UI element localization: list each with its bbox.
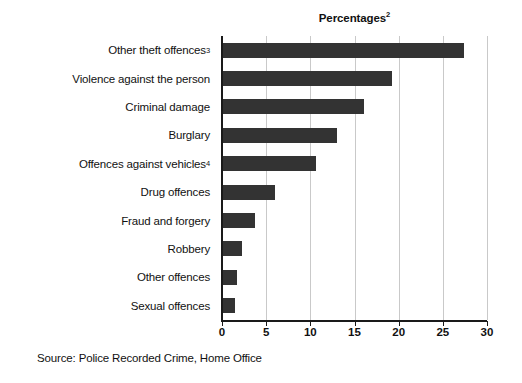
bar-series	[222, 36, 487, 320]
bar	[222, 241, 242, 256]
bar-row	[222, 235, 242, 263]
category-label: Sexual offences	[131, 292, 210, 320]
plot-area	[222, 36, 487, 320]
bar-row	[222, 150, 316, 178]
category-label-text: Offences against vehicles	[79, 158, 206, 170]
bar	[222, 298, 235, 313]
category-label-text: Other theft offences	[108, 44, 206, 56]
chart-title-text: Percentages	[319, 12, 386, 24]
category-label-text: Other offences	[137, 271, 210, 283]
bar-row	[222, 64, 392, 92]
category-footnote-marker: 4	[206, 159, 210, 168]
bar	[222, 185, 275, 200]
category-label: Offences against vehicles4	[79, 150, 210, 178]
x-axis-tick-label: 25	[436, 326, 449, 338]
chart-title: Percentages2	[222, 10, 487, 24]
bar-row	[222, 263, 237, 291]
bar-row	[222, 206, 255, 234]
category-label: Other theft offences3	[108, 36, 210, 64]
category-axis-labels: Other theft offences3Violence against th…	[0, 36, 216, 320]
gridline	[487, 36, 488, 320]
bar	[222, 213, 255, 228]
category-label-text: Burglary	[168, 129, 210, 141]
x-axis-tick-label: 10	[304, 326, 317, 338]
x-axis-tick-label: 20	[392, 326, 405, 338]
category-label: Criminal damage	[125, 93, 210, 121]
bar	[222, 270, 237, 285]
category-label-text: Fraud and forgery	[121, 215, 210, 227]
bar	[222, 128, 337, 143]
bar	[222, 156, 316, 171]
bar-row	[222, 292, 235, 320]
x-axis-tick-labels: 051015202530	[222, 326, 487, 342]
source-note: Source: Police Recorded Crime, Home Offi…	[37, 352, 262, 364]
category-label: Robbery	[168, 235, 210, 263]
y-axis-line	[221, 36, 223, 321]
category-label-text: Drug offences	[141, 186, 210, 198]
bar	[222, 99, 364, 114]
category-label-text: Criminal damage	[125, 101, 210, 113]
bar-row	[222, 178, 275, 206]
category-label: Fraud and forgery	[121, 206, 210, 234]
category-footnote-marker: 3	[206, 46, 210, 55]
category-label: Burglary	[168, 121, 210, 149]
bar-chart: Percentages2 Other theft offences3Violen…	[0, 0, 522, 383]
category-label-text: Sexual offences	[131, 300, 210, 312]
x-axis-tick-label: 0	[219, 326, 225, 338]
bar-row	[222, 121, 337, 149]
category-label: Other offences	[137, 263, 210, 291]
bar-row	[222, 36, 464, 64]
x-axis-tick-label: 5	[263, 326, 269, 338]
x-axis-tick-label: 30	[481, 326, 494, 338]
x-axis-tick-label: 15	[348, 326, 361, 338]
category-label: Violence against the person	[72, 64, 210, 92]
category-label: Drug offences	[141, 178, 210, 206]
category-label-text: Robbery	[168, 243, 210, 255]
bar-row	[222, 93, 364, 121]
bar	[222, 43, 464, 58]
chart-title-footnote-marker: 2	[386, 10, 390, 19]
bar	[222, 71, 392, 86]
category-label-text: Violence against the person	[72, 73, 210, 85]
